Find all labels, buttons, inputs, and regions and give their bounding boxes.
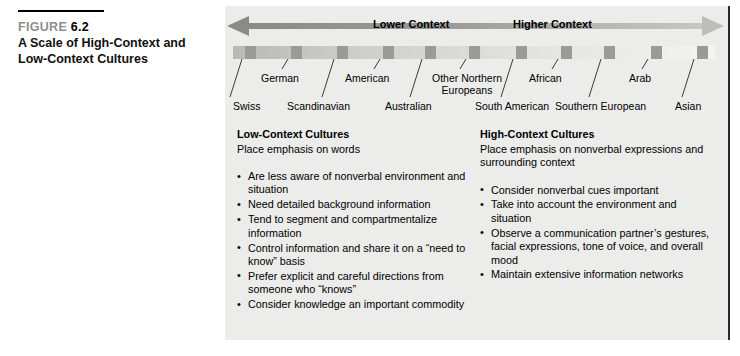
list-item: Need detailed background information [237, 198, 470, 211]
low-context-column: Low-Context Cultures Place emphasis on w… [237, 128, 470, 313]
high-context-subhead: Place emphasis on nonverbal expressions … [480, 143, 713, 170]
lower-context-label: Lower Context [373, 18, 449, 30]
low-context-bullet-list: Are less aware of nonverbal environment … [237, 170, 470, 312]
list-item: Prefer explicit and careful directions f… [237, 270, 470, 297]
scale-tick-southern-european [604, 46, 615, 59]
scale-tick-asian [697, 46, 708, 59]
page-title: A Scale of High-Context and Low-Context … [18, 36, 218, 67]
list-item: Tend to segment and compartmentalize inf… [237, 213, 470, 240]
figure-number-value: 6.2 [71, 20, 89, 34]
scale-tick-african [561, 46, 572, 59]
list-item: Control information and share it on a “n… [237, 242, 470, 269]
high-context-column: High-Context Cultures Place emphasis on … [480, 128, 713, 313]
figure-panel: Lower Context Higher Context SwissGerman… [225, 6, 730, 340]
scale-tick-swiss [245, 46, 256, 59]
high-context-heading: High-Context Cultures [480, 128, 713, 142]
scale-tick-american [383, 46, 394, 59]
leader-line [682, 59, 694, 97]
list-item: Consider nonverbal cues important [480, 184, 713, 197]
culture-label: Swiss [233, 100, 260, 112]
figure-title-line-1: A Scale of High-Context and [18, 36, 186, 50]
context-columns: Low-Context Cultures Place emphasis on w… [237, 128, 723, 313]
low-context-subhead: Place emphasis on words [237, 143, 470, 157]
caption-rule [18, 10, 104, 12]
list-item: Maintain extensive information networks [480, 268, 713, 281]
scale-tick-south-american [516, 46, 527, 59]
leader-line [552, 59, 558, 69]
culture-label: Asian [675, 100, 701, 112]
leader-line [410, 59, 422, 97]
list-item: Consider knowledge an important commodit… [237, 298, 470, 311]
figure-root: FIGURE 6.2 A Scale of High-Context and L… [0, 0, 740, 356]
scale-tick-scandinavian [337, 46, 348, 59]
figure-number: FIGURE 6.2 [18, 20, 218, 35]
culture-label: American [345, 72, 389, 84]
leader-line [282, 59, 288, 69]
culture-label: Other NorthernEuropeans [429, 72, 505, 96]
context-scale-bar [233, 46, 715, 59]
culture-label: Australian [385, 100, 432, 112]
high-context-bullet-list: Consider nonverbal cues importantTake in… [480, 184, 713, 282]
leader-line [642, 59, 648, 69]
leader-line [589, 59, 601, 97]
culture-label: African [529, 72, 562, 84]
arrow-right-icon [702, 16, 724, 36]
figure-label: FIGURE [18, 20, 67, 34]
higher-context-label: Higher Context [513, 18, 592, 30]
scale-tick-other-northern-europeans [469, 46, 480, 59]
culture-label: German [261, 72, 299, 84]
context-axis: Lower Context Higher Context [225, 14, 726, 40]
low-context-heading: Low-Context Cultures [237, 128, 470, 142]
culture-label: Arab [629, 72, 651, 84]
leader-line [322, 59, 334, 97]
culture-label: Scandinavian [287, 100, 350, 112]
scale-tick-arab [651, 46, 662, 59]
leader-line [460, 59, 466, 69]
list-item: Take into account the environment and si… [480, 198, 713, 225]
culture-label: Southern European [555, 100, 646, 112]
context-axis-arrows [225, 14, 726, 40]
scale-tick-german [291, 46, 302, 59]
leader-line [230, 59, 242, 97]
list-item: Observe a communication partner’s gestur… [480, 227, 713, 267]
leader-line [374, 59, 380, 69]
figure-title-line-2: Low-Context Cultures [18, 52, 148, 66]
culture-label: South American [475, 100, 549, 112]
list-item: Are less aware of nonverbal environment … [237, 170, 470, 197]
arrow-left-icon [227, 16, 249, 36]
figure-caption-block: FIGURE 6.2 A Scale of High-Context and L… [18, 10, 218, 67]
scale-tick-australian [425, 46, 436, 59]
